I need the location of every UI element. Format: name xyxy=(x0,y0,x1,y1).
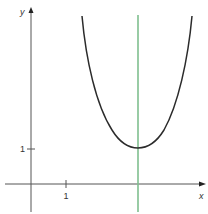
curve xyxy=(82,16,192,148)
y-tick-label-1: 1 xyxy=(20,144,25,154)
y-axis-arrow-icon xyxy=(29,7,34,13)
x-tick-label-1: 1 xyxy=(64,191,69,201)
y-axis-label: y xyxy=(19,7,25,17)
x-axis-arrow-icon xyxy=(199,182,206,187)
x-axis-label: x xyxy=(198,191,204,201)
chart-canvas: y x 1 1 xyxy=(0,0,208,214)
